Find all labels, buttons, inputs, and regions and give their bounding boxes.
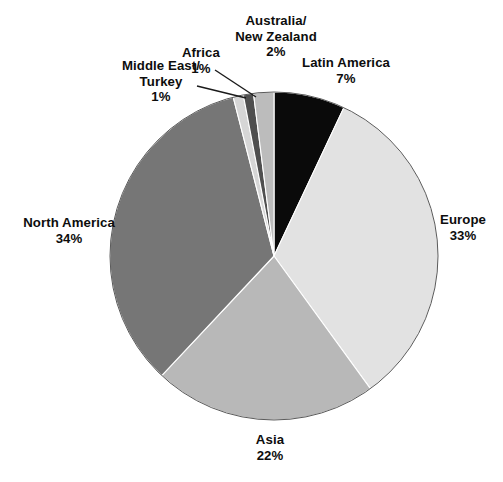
slice-label-europe: Europe 33% xyxy=(428,212,498,243)
slice-label-australia-line1: Australia/ xyxy=(216,13,336,29)
slice-label-asia-text: Asia xyxy=(225,432,315,448)
slice-label-latin-text: Latin America xyxy=(287,55,405,71)
slice-label-europe-text: Europe xyxy=(428,212,498,228)
pie-chart-page: Australia/ New Zealand 2% Africa 1% Lati… xyxy=(0,0,503,482)
slice-value-middle: 1% xyxy=(106,89,216,105)
slice-value-asia: 22% xyxy=(225,448,315,464)
slice-label-north-text: North America xyxy=(10,215,128,231)
slice-label-north-america: North America 34% xyxy=(10,215,128,246)
slice-value-europe: 33% xyxy=(428,228,498,244)
slice-value-north: 34% xyxy=(10,231,128,247)
slice-label-australia-line2: New Zealand xyxy=(216,29,336,45)
pie-slice-group xyxy=(110,92,438,420)
slice-label-latin-america: Latin America 7% xyxy=(287,55,405,86)
slice-label-middle-line1: Middle East/ xyxy=(106,58,216,74)
slice-value-latin: 7% xyxy=(287,71,405,87)
slice-label-middle-line2: Turkey xyxy=(106,74,216,90)
cropped-caption-text xyxy=(14,472,314,481)
slice-label-middle-east-turkey: Middle East/ Turkey 1% xyxy=(106,58,216,105)
slice-label-asia: Asia 22% xyxy=(225,432,315,463)
